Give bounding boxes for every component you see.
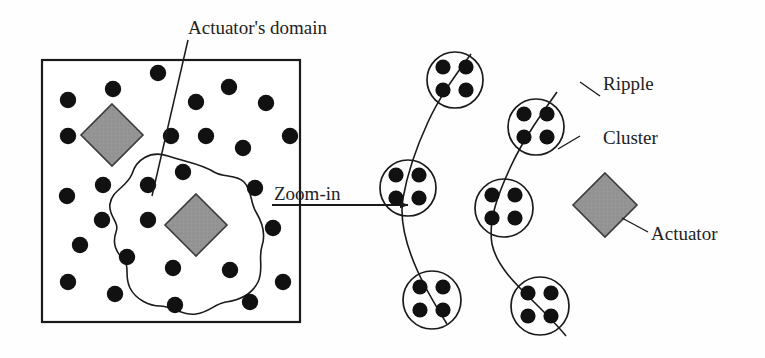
cluster-circle [508, 99, 564, 155]
cluster-circle [427, 52, 483, 108]
label-actuator: Actuator [651, 224, 717, 243]
sensor-node [119, 249, 135, 265]
cluster [511, 277, 569, 335]
sensor-node [388, 167, 403, 182]
sensor-node [188, 94, 204, 110]
sensor-node [198, 128, 214, 144]
cluster [508, 99, 564, 155]
sensor-node [539, 106, 554, 121]
sensor-node [247, 180, 263, 196]
sensor-node [235, 140, 251, 156]
sensor-node [140, 212, 156, 228]
sensor-node [167, 297, 183, 313]
sensor-node [175, 164, 191, 180]
sensor-node [412, 279, 427, 294]
sensor-node [72, 237, 88, 253]
sensor-node [507, 210, 522, 225]
sensor-node [507, 187, 522, 202]
actuator-shape-detail [573, 173, 637, 237]
sensor-node [484, 210, 499, 225]
sensor-node [543, 285, 558, 300]
cluster [475, 179, 533, 237]
sensor-node [94, 212, 110, 228]
sensor-node [516, 106, 531, 121]
sensor-node [458, 59, 473, 74]
sensor-node [60, 274, 76, 290]
sensor-node [275, 274, 291, 290]
sensor-node [411, 167, 426, 182]
right-panel-group [380, 52, 648, 336]
sensor-node [60, 92, 76, 108]
ripple-leader-line [580, 82, 600, 96]
sensor-node [265, 220, 281, 236]
sensor-node [95, 177, 111, 193]
sensor-node [435, 302, 450, 317]
sensor-node [435, 82, 450, 97]
sensor-node [150, 65, 166, 81]
diagram-svg [0, 0, 765, 358]
cluster-circle [511, 277, 569, 335]
label-actuators-domain: Actuator's domain [188, 18, 327, 37]
sensor-node [282, 128, 298, 144]
sensor-node [242, 294, 258, 310]
cluster [380, 160, 436, 216]
sensor-node [60, 128, 76, 144]
label-ripple: Ripple [603, 74, 654, 93]
actuator-leader-line [622, 218, 648, 232]
sensor-node [435, 279, 450, 294]
cluster-circle [380, 160, 436, 216]
sensor-node [59, 188, 75, 204]
sensor-node [435, 59, 450, 74]
sensor-node [221, 79, 237, 95]
cluster-group [380, 52, 569, 335]
ripple-curve-group [402, 54, 566, 336]
cluster [427, 52, 483, 108]
sensor-node [411, 190, 426, 205]
sensor-node [516, 129, 531, 144]
sensor-node [107, 286, 123, 302]
sensor-node [412, 302, 427, 317]
sensor-node [539, 129, 554, 144]
sensor-node [520, 285, 535, 300]
sensor-node [484, 187, 499, 202]
label-zoom-in: Zoom-in [274, 184, 341, 203]
sensor-node [105, 81, 121, 97]
sensor-node [520, 308, 535, 323]
sensor-node [388, 190, 403, 205]
label-cluster: Cluster [603, 128, 658, 147]
left-panel-group [42, 40, 408, 322]
sensor-node [222, 262, 238, 278]
sensor-node [458, 82, 473, 97]
sensor-node [165, 260, 181, 276]
cluster-circle [475, 179, 533, 237]
figure-canvas: Actuator's domain Zoom-in Ripple Cluster… [0, 0, 765, 358]
sensor-node [543, 308, 558, 323]
sensor-node [258, 95, 274, 111]
